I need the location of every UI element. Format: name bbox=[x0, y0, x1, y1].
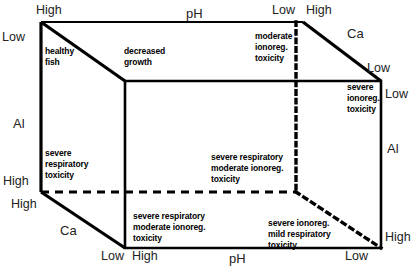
region-line: toxicity bbox=[268, 240, 331, 251]
region-line: moderate ionoreg. bbox=[133, 222, 205, 233]
region-severe-respiratory-toxicity: severe respiratory toxicity bbox=[45, 148, 88, 181]
region-healthy-fish: healthy fish bbox=[45, 46, 74, 68]
region-line: decreased bbox=[124, 46, 165, 57]
region-severe-respiratory-moderate-ionoreg-toxicity-front: severe respiratory moderate ionoreg. tox… bbox=[133, 211, 205, 244]
label-top-left-low: Low bbox=[2, 31, 25, 44]
region-severe-respiratory-moderate-ionoreg-toxicity-mid: severe respiratory moderate ionoreg. tox… bbox=[211, 152, 283, 185]
label-right-low: Low bbox=[385, 88, 408, 101]
label-left-high-lower: High bbox=[11, 198, 37, 211]
label-right-al: Al bbox=[387, 142, 399, 155]
region-line: toxicity bbox=[45, 170, 88, 181]
region-line: fish bbox=[45, 57, 74, 68]
label-left-al: Al bbox=[13, 117, 25, 130]
region-severe-ionoreg-mild-respiratory-toxicity: severe ionoreg. mild respiratory toxicit… bbox=[268, 218, 331, 251]
region-line: mild respiratory bbox=[268, 229, 331, 240]
label-right-ca-low: Low bbox=[367, 62, 390, 75]
region-line: toxicity bbox=[255, 53, 292, 64]
label-top-front-right-high: High bbox=[306, 4, 332, 17]
label-top-right-ca: Ca bbox=[347, 27, 364, 40]
region-moderate-ionoreg-toxicity: moderate ionoreg. toxicity bbox=[255, 31, 292, 64]
region-line: moderate bbox=[255, 31, 292, 42]
label-bottom-ph: pH bbox=[229, 252, 246, 265]
region-line: moderate ionoreg. bbox=[211, 163, 283, 174]
label-bottom-back-low: Low bbox=[101, 250, 124, 263]
region-line: toxicity bbox=[211, 174, 283, 185]
region-line: toxicity bbox=[347, 104, 380, 115]
label-left-high-upper: High bbox=[3, 175, 29, 188]
label-right-high: High bbox=[385, 231, 411, 244]
label-top-back-right-low: Low bbox=[272, 4, 295, 17]
region-line: respiratory bbox=[45, 159, 88, 170]
region-line: growth bbox=[124, 57, 165, 68]
region-line: severe bbox=[45, 148, 88, 159]
region-line: severe bbox=[347, 82, 380, 93]
cube-edge-bottomleft-connector bbox=[41, 192, 125, 248]
region-line: ionoreg. bbox=[255, 42, 292, 53]
label-top-back-left-high: High bbox=[36, 4, 62, 17]
region-line: ionoreg. bbox=[347, 93, 380, 104]
toxicity-cube-diagram: High Low pH Low High Ca Low Low Al High … bbox=[0, 0, 416, 278]
region-decreased-growth: decreased growth bbox=[124, 46, 165, 68]
label-bottom-front-high: High bbox=[132, 250, 158, 263]
region-severe-ionoreg-toxicity: severe ionoreg. toxicity bbox=[347, 82, 380, 115]
label-top-ph: pH bbox=[186, 7, 203, 20]
region-line: severe respiratory bbox=[211, 152, 283, 163]
region-line: healthy bbox=[45, 46, 74, 57]
region-line: toxicity bbox=[133, 233, 205, 244]
region-line: severe respiratory bbox=[133, 211, 205, 222]
region-line: severe ionoreg. bbox=[268, 218, 331, 229]
label-bottom-front-low: Low bbox=[345, 250, 368, 263]
label-left-ca: Ca bbox=[60, 224, 77, 237]
